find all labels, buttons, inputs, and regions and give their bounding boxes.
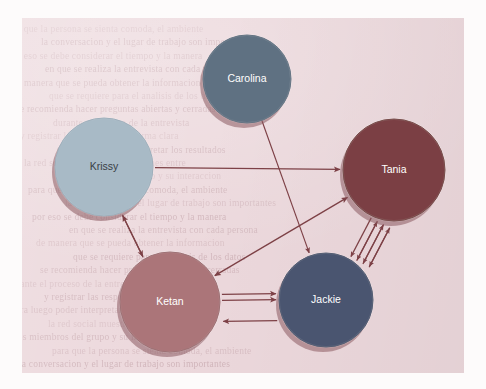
graph-edge — [155, 168, 340, 170]
graph-node-label: Krissy — [90, 160, 119, 172]
graph-node-krissy[interactable]: Krissy — [55, 118, 153, 216]
graph-node-label: Ketan — [156, 295, 184, 307]
graph-edge — [363, 224, 383, 263]
graph-node-carolina[interactable]: Carolina — [203, 35, 291, 123]
graph-node-ketan[interactable]: Ketan — [120, 252, 220, 352]
network-diagram: CarolinaKrissyTaniaKetanJackie — [0, 0, 486, 389]
screenshot-root: para que la persona se sienta comoda, el… — [0, 0, 486, 389]
node-layer: CarolinaKrissyTaniaKetanJackie — [55, 35, 445, 352]
graph-edge — [261, 119, 309, 253]
graph-edge — [223, 321, 277, 322]
graph-edge — [122, 215, 142, 257]
graph-edge — [357, 221, 377, 260]
graph-edge — [351, 218, 371, 257]
graph-edge — [370, 228, 390, 267]
graph-node-label: Carolina — [227, 72, 266, 84]
graph-node-label: Jackie — [311, 293, 341, 305]
graph-node-tania[interactable]: Tania — [343, 119, 445, 221]
graph-edge — [222, 300, 276, 301]
graph-node-jackie[interactable]: Jackie — [279, 253, 373, 347]
graph-edge — [222, 294, 276, 295]
graph-node-label: Tania — [381, 163, 406, 175]
